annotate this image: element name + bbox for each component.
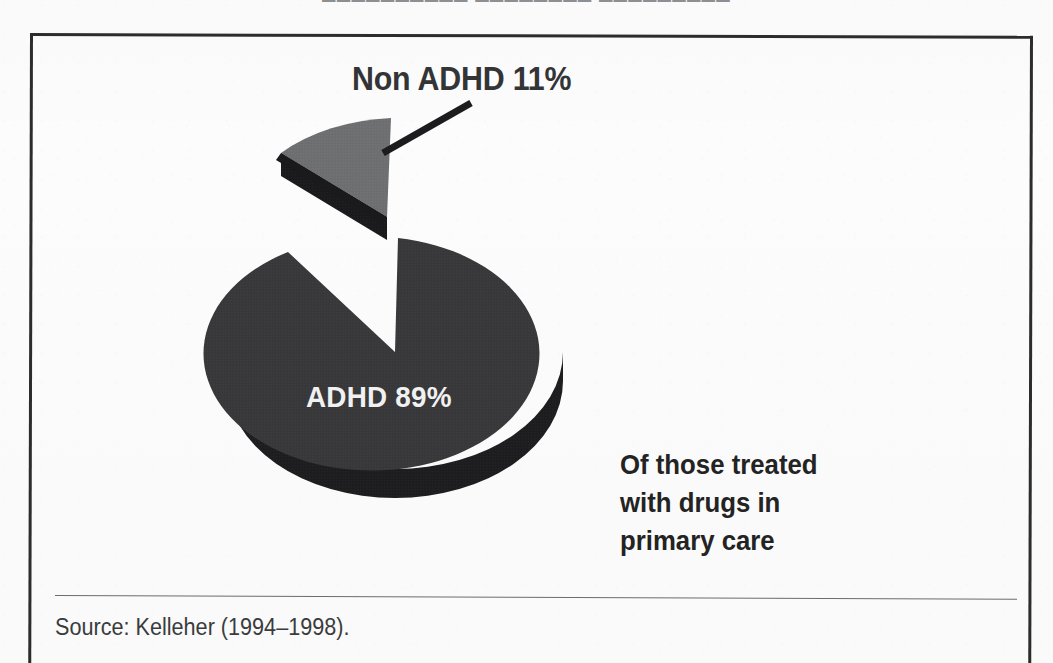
- callout-leader-line: [383, 103, 471, 153]
- caption-line-2: with drugs in: [620, 484, 818, 522]
- source-note: Source: Kelleher (1994–1998).: [55, 614, 349, 641]
- pie-slice-label-adhd: ADHD 89%: [306, 380, 452, 414]
- caption-line-3: primary care: [620, 522, 818, 560]
- pie-chart-svg: [0, 0, 1053, 663]
- figure-caption: Of those treated with drugs in primary c…: [620, 446, 818, 560]
- pie-chart: [0, 0, 1053, 663]
- caption-line-1: Of those treated: [620, 446, 818, 484]
- pie-slice-adhd: [203, 238, 539, 471]
- figure-page: ██████████ ████████ █████████: [0, 0, 1053, 663]
- pie-callout-label-non-adhd: Non ADHD 11%: [352, 60, 571, 98]
